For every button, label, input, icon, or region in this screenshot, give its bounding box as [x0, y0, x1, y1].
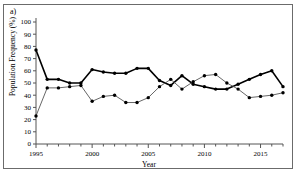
x-tick-label: 2010 — [197, 150, 212, 158]
data-point-marker — [270, 94, 273, 97]
data-point-marker — [214, 87, 217, 90]
data-point-marker — [259, 73, 262, 76]
data-point-marker — [34, 114, 37, 117]
data-point-marker — [191, 80, 194, 83]
data-point-marker — [102, 70, 105, 73]
data-point-marker — [34, 48, 37, 51]
data-point-marker — [236, 87, 239, 90]
chart-canvas: 0102030405060708090100 19952000200520102… — [0, 0, 298, 180]
data-point-marker — [158, 85, 161, 88]
data-point-marker — [180, 87, 183, 90]
data-point-marker — [46, 78, 49, 81]
y-tick-label: 10 — [24, 128, 32, 136]
data-point-marker — [203, 74, 206, 77]
data-point-marker — [79, 84, 82, 87]
data-point-marker — [46, 86, 49, 89]
data-point-marker — [281, 85, 284, 88]
data-point-marker — [225, 87, 228, 90]
data-point-marker — [169, 84, 172, 87]
y-tick-label: 20 — [24, 116, 32, 124]
y-tick-label: 0 — [28, 140, 32, 148]
x-tick-label: 1995 — [29, 150, 44, 158]
data-point-marker — [180, 74, 183, 77]
data-point-marker — [57, 78, 60, 81]
data-point-marker — [90, 100, 93, 103]
data-point-marker — [158, 79, 161, 82]
data-point-marker — [113, 94, 116, 97]
data-point-marker — [270, 69, 273, 72]
y-tick-label: 40 — [24, 92, 32, 100]
data-point-marker — [236, 83, 239, 86]
data-point-marker — [135, 101, 138, 104]
data-point-marker — [68, 85, 71, 88]
data-point-marker — [124, 72, 127, 75]
series-line-series-upper — [36, 50, 283, 89]
data-point-marker — [169, 78, 172, 81]
data-series-group — [34, 48, 284, 117]
data-point-marker — [147, 67, 150, 70]
y-tick-label: 100 — [21, 18, 32, 26]
data-point-marker — [147, 96, 150, 99]
y-tick-label: 80 — [24, 43, 32, 51]
x-tick-label: 2015 — [254, 150, 269, 158]
y-tick-label: 60 — [24, 67, 32, 75]
data-point-marker — [281, 91, 284, 94]
y-tick-label: 30 — [24, 104, 32, 112]
y-tick-label: 90 — [24, 31, 32, 39]
data-point-marker — [135, 67, 138, 70]
data-point-marker — [57, 86, 60, 89]
y-tick-label: 50 — [24, 79, 32, 87]
data-point-marker — [225, 81, 228, 84]
data-point-marker — [90, 68, 93, 71]
data-point-marker — [248, 96, 251, 99]
data-point-marker — [124, 101, 127, 104]
y-axis-ticks: 0102030405060708090100 — [21, 18, 37, 148]
x-tick-label: 2005 — [141, 150, 156, 158]
data-point-marker — [113, 72, 116, 75]
data-point-marker — [102, 95, 105, 98]
x-tick-label: 2000 — [85, 150, 100, 158]
data-point-marker — [259, 95, 262, 98]
data-point-marker — [214, 73, 217, 76]
data-point-marker — [248, 78, 251, 81]
x-axis-ticks: 19952000200520102015 — [29, 144, 283, 158]
data-point-marker — [203, 85, 206, 88]
figure-panel: a) Population Frequency (%) Year 0102030… — [0, 0, 298, 180]
data-point-marker — [68, 81, 71, 84]
y-tick-label: 70 — [24, 55, 32, 63]
